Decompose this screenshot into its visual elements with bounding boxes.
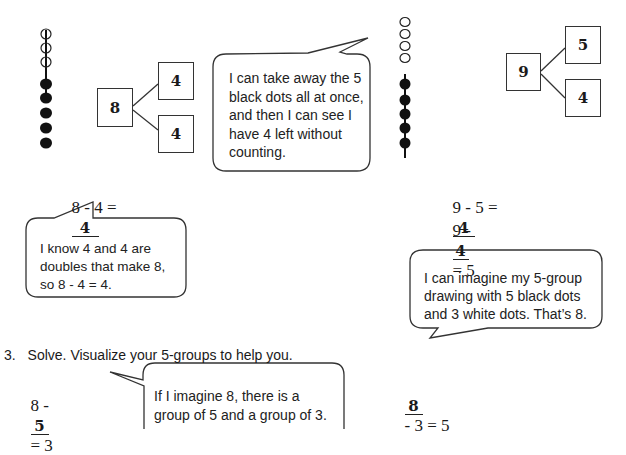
question-instruction: Solve. Visualize your 5-groups to help y… bbox=[28, 347, 293, 363]
question-number: 3. bbox=[4, 347, 16, 363]
equation-q3-2-right: - 3 = 5 bbox=[405, 416, 450, 435]
bubble-line: I can take away the 5 bbox=[229, 69, 364, 88]
question-3-header: 3. Solve. Visualize your 5-groups to hel… bbox=[4, 347, 293, 363]
bond-b-whole: 9 bbox=[506, 53, 541, 91]
bubble-line: I can imagine my 5-group bbox=[424, 269, 587, 287]
bubble-line: drawing with 5 black dots bbox=[424, 287, 587, 305]
bead-string-b-icon bbox=[400, 18, 411, 159]
bubble-top-text: I can take away the 5 black dots all at … bbox=[229, 69, 364, 162]
bubble-line: If I imagine 8, there is a bbox=[154, 387, 327, 406]
bubble-line: and then I can see I bbox=[229, 106, 364, 125]
bubble-bottom-text: If I imagine 8, there is a group of 5 an… bbox=[154, 387, 327, 425]
bubble-line: black dots all at once, bbox=[229, 88, 364, 107]
bond-a-part2: 4 bbox=[158, 115, 194, 153]
bubble-line: doubles that make 8, bbox=[40, 258, 165, 276]
equation-q3-1-right: = 3 bbox=[31, 436, 53, 455]
answer-blank-b2[interactable]: 4 bbox=[453, 243, 469, 260]
bubble-line: I know 4 and 4 are bbox=[40, 240, 165, 258]
bubble-line: and 3 white dots. That’s 8. bbox=[424, 305, 587, 323]
equation-a: 8 - 4 = 4 bbox=[63, 178, 117, 238]
equation-q3-2: 8 - 3 = 5 bbox=[396, 376, 450, 436]
bubble-line: counting. bbox=[229, 143, 364, 162]
bubble-left-text: I know 4 and 4 are doubles that make 8, … bbox=[40, 240, 165, 294]
answer-blank-a[interactable]: 4 bbox=[72, 220, 99, 237]
answer-blank-q3-1[interactable]: 5 bbox=[31, 418, 49, 435]
bubble-line: group of 5 and a group of 3. bbox=[154, 406, 327, 425]
bond-a-whole: 8 bbox=[97, 88, 133, 127]
bubble-line: so 8 - 4 = 4. bbox=[40, 276, 165, 294]
bond-b-part1: 5 bbox=[565, 26, 601, 64]
equation-a-left: 8 - 4 = bbox=[72, 198, 117, 217]
equation-b2-left: 9 - bbox=[453, 221, 471, 240]
bead-string-a-icon bbox=[40, 29, 52, 149]
equation-q3-1-left: 8 - bbox=[31, 396, 49, 415]
equation-q3-1: 8 - 5 = 3 bbox=[22, 376, 53, 455]
bubble-line: have 4 left without bbox=[229, 125, 364, 144]
answer-blank-q3-2[interactable]: 8 bbox=[405, 398, 423, 415]
bond-b-part2: 4 bbox=[565, 79, 601, 117]
bond-a-part1: 4 bbox=[158, 62, 194, 100]
bubble-right-text: I can imagine my 5-group drawing with 5 … bbox=[424, 269, 587, 323]
